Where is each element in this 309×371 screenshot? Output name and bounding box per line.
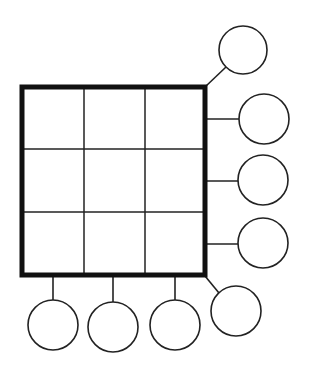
sum-circle-diagonal-top[interactable] — [219, 26, 267, 74]
grid-cell-r3-c1[interactable] — [22, 212, 84, 275]
grid-3x3 — [22, 87, 205, 275]
circle-shape — [219, 26, 267, 74]
grid-cell-r2-c1[interactable] — [22, 149, 84, 212]
cell-area — [22, 212, 84, 275]
sum-circle-col-1[interactable] — [28, 300, 78, 350]
circle-shape — [238, 155, 288, 205]
grid-cell-r2-c2[interactable] — [84, 149, 145, 212]
cell-area — [145, 212, 205, 275]
grid-cell-r2-c3[interactable] — [145, 149, 205, 212]
grid-cell-r1-c3[interactable] — [145, 87, 205, 149]
grid-cell-r1-c1[interactable] — [22, 87, 84, 149]
circle-shape — [238, 218, 288, 268]
grid-cell-r3-c3[interactable] — [145, 212, 205, 275]
sum-circle-col-3[interactable] — [150, 300, 200, 350]
connector-diagonal-bottom — [205, 276, 219, 293]
circle-shape — [211, 286, 261, 336]
circle-shape — [28, 300, 78, 350]
sum-circle-row-1[interactable] — [239, 94, 289, 144]
magic-square-diagram — [0, 0, 309, 371]
circle-shape — [88, 302, 138, 352]
cell-area — [84, 212, 145, 275]
sum-circle-row-3[interactable] — [238, 218, 288, 268]
grid-cell-r1-c2[interactable] — [84, 87, 145, 149]
circle-shape — [150, 300, 200, 350]
cell-area — [145, 149, 205, 212]
grid-cell-r3-c2[interactable] — [84, 212, 145, 275]
sum-circle-row-2[interactable] — [238, 155, 288, 205]
diagram-canvas — [0, 0, 309, 371]
connector-diagonal-top — [205, 67, 226, 87]
circle-shape — [239, 94, 289, 144]
cell-area — [22, 87, 84, 149]
sum-circle-diagonal-bottom[interactable] — [211, 286, 261, 336]
cell-area — [84, 87, 145, 149]
cell-area — [145, 87, 205, 149]
cell-area — [84, 149, 145, 212]
sum-circle-col-2[interactable] — [88, 302, 138, 352]
cell-area — [22, 149, 84, 212]
